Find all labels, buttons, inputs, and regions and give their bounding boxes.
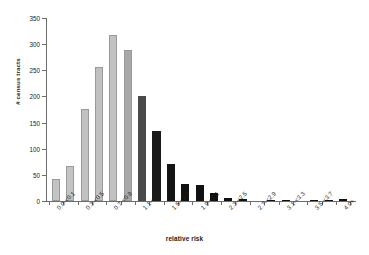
y-tick-mark	[42, 18, 46, 19]
x-tick-mark	[135, 202, 136, 205]
bar	[196, 185, 204, 201]
x-axis-title: relative risk	[0, 235, 369, 242]
y-tick-mark	[42, 175, 46, 176]
x-tick-mark	[336, 202, 337, 205]
x-tick-mark	[164, 202, 165, 205]
y-tick-label: 300	[29, 41, 40, 48]
y-axis-title: # census tracts	[14, 32, 21, 132]
y-tick-label: 200	[29, 93, 40, 100]
bar	[138, 96, 146, 201]
x-tick-mark	[78, 202, 79, 205]
x-tick-mark	[279, 202, 280, 205]
y-tick-label: 100	[29, 145, 40, 152]
y-tick-mark	[42, 201, 46, 202]
x-tick-mark	[49, 202, 50, 205]
x-tick-mark	[221, 202, 222, 205]
bar	[124, 50, 132, 201]
x-tick-mark	[307, 202, 308, 205]
bar	[109, 35, 117, 201]
y-tick-mark	[42, 70, 46, 71]
y-tick-label: 0	[36, 198, 40, 205]
bar	[81, 109, 89, 201]
y-tick-mark	[42, 44, 46, 45]
y-tick-label: 250	[29, 67, 40, 74]
y-tick-label: 150	[29, 119, 40, 126]
x-tick-mark	[106, 202, 107, 205]
y-tick-mark	[42, 96, 46, 97]
y-axis-line	[46, 18, 47, 202]
bar	[95, 67, 103, 201]
y-tick-mark	[42, 123, 46, 124]
y-tick-label: 50	[33, 171, 40, 178]
bar	[167, 164, 175, 201]
x-tick-mark	[192, 202, 193, 205]
plot-area: 050100150200250300350	[46, 18, 356, 202]
y-tick-mark	[42, 149, 46, 150]
bar	[52, 179, 60, 201]
bar-chart: # census tracts 050100150200250300350 0.…	[0, 0, 369, 255]
y-tick-label: 350	[29, 15, 40, 22]
x-tick-mark	[250, 202, 251, 205]
